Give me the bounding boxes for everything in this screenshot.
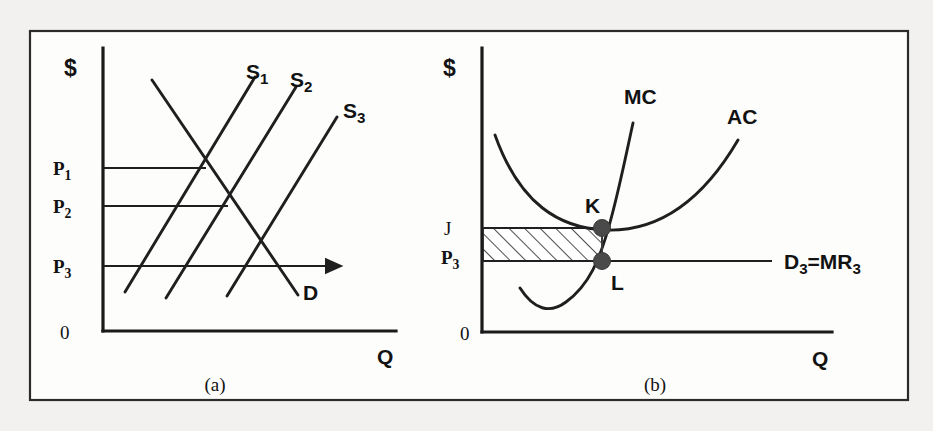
panel-b-loss-rectangle [483, 228, 602, 261]
figure-canvas: $ P1 P2 P3 0 S1 S2 S3 D Q (a) $ [0, 0, 933, 431]
panel-b-demand-label: D3=MR3 [784, 250, 861, 277]
panel-b-point-label-l: L [611, 271, 624, 294]
panel-b-point-l [594, 253, 611, 270]
panel-b-point-label-k: K [585, 194, 600, 217]
panel-b-origin-label: 0 [460, 323, 470, 344]
panel-b-price-label-j: J [444, 218, 451, 239]
panel-b-caption: (b) [644, 374, 666, 396]
economics-figure: $ P1 P2 P3 0 S1 S2 S3 D Q (a) $ [0, 0, 933, 431]
panel-a-x-axis-label: Q [377, 345, 393, 368]
panel-a-y-axis-label: $ [64, 55, 77, 81]
panel-a-origin-label: 0 [60, 322, 70, 343]
panel-a-demand-label: D [303, 281, 318, 304]
panel-a-caption: (a) [204, 374, 225, 396]
panel-b-x-axis-label: Q [812, 347, 828, 370]
figure-frame [30, 31, 908, 400]
panel-b-average-cost-label: AC [727, 105, 757, 128]
panel-b-point-k [594, 220, 611, 237]
panel-b-y-axis-label: $ [443, 55, 456, 81]
panel-b-marginal-cost-label: MC [624, 85, 657, 108]
